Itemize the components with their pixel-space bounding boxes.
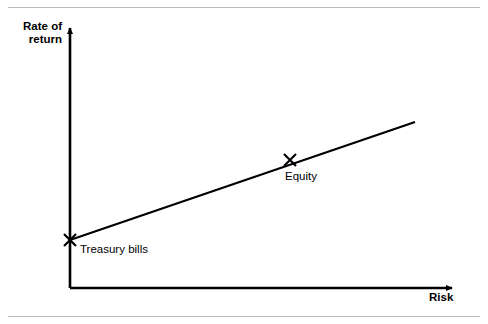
figure-chart-risk-return: Rate of return Risk Treasury bills Equit… [0,0,488,324]
data-point-label-equity: Equity [285,170,317,182]
security-market-line [70,122,415,240]
y-axis-label: Rate of return [8,20,62,45]
x-axis-label: Risk [429,291,453,304]
plot-area [0,0,488,324]
data-point-label-treasury-bills: Treasury bills [80,243,148,255]
